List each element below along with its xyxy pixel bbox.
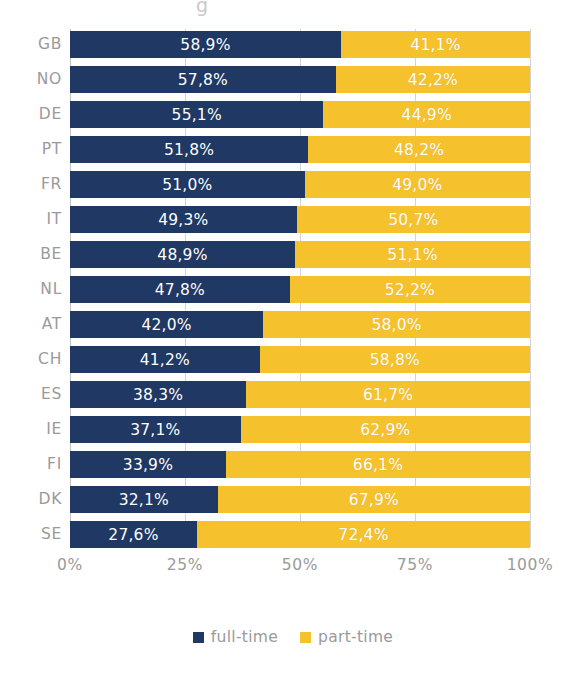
bar-row[interactable]: 55,1%44,9% xyxy=(70,101,530,128)
bar-segment-full-time[interactable]: 37,1% xyxy=(70,416,241,443)
legend-swatch-full-time xyxy=(193,632,204,643)
plot-area: 58,9%41,1%57,8%42,2%55,1%44,9%51,8%48,2%… xyxy=(70,29,530,547)
bar-row[interactable]: 58,9%41,1% xyxy=(70,31,530,58)
bar-row[interactable]: 51,0%49,0% xyxy=(70,171,530,198)
bar-row[interactable]: 47,8%52,2% xyxy=(70,276,530,303)
category-label-be: BE xyxy=(10,241,62,268)
bar-value-label-part-time: 66,1% xyxy=(353,456,403,474)
bar-segment-part-time[interactable]: 67,9% xyxy=(218,486,530,513)
category-label-de: DE xyxy=(10,101,62,128)
bar-segment-part-time[interactable]: 48,2% xyxy=(308,136,530,163)
bar-segment-part-time[interactable]: 72,4% xyxy=(197,521,530,548)
category-axis: GBNODEPTFRITBENLATCHESIEFIDKSE xyxy=(0,29,62,547)
bar-segment-part-time[interactable]: 50,7% xyxy=(297,206,530,233)
bar-value-label-part-time: 50,7% xyxy=(388,211,438,229)
bar-value-label-full-time: 33,9% xyxy=(123,456,173,474)
bar-segment-full-time[interactable]: 48,9% xyxy=(70,241,295,268)
bar-segment-part-time[interactable]: 58,0% xyxy=(263,311,530,338)
bar-value-label-full-time: 57,8% xyxy=(178,71,228,89)
category-label-fi: FI xyxy=(10,451,62,478)
bar-value-label-part-time: 49,0% xyxy=(392,176,442,194)
bar-row[interactable]: 49,3%50,7% xyxy=(70,206,530,233)
category-label-se: SE xyxy=(10,521,62,548)
bar-segment-part-time[interactable]: 58,8% xyxy=(260,346,530,373)
bar-segment-full-time[interactable]: 47,8% xyxy=(70,276,290,303)
bar-segment-full-time[interactable]: 32,1% xyxy=(70,486,218,513)
bar-value-label-part-time: 58,0% xyxy=(371,316,421,334)
category-label-at: AT xyxy=(10,311,62,338)
bar-value-label-full-time: 58,9% xyxy=(180,36,230,54)
bar-row[interactable]: 57,8%42,2% xyxy=(70,66,530,93)
bar-value-label-full-time: 55,1% xyxy=(172,106,222,124)
bar-segment-full-time[interactable]: 58,9% xyxy=(70,31,341,58)
bar-segment-part-time[interactable]: 41,1% xyxy=(341,31,530,58)
category-label-dk: DK xyxy=(10,486,62,513)
bar-segment-part-time[interactable]: 62,9% xyxy=(241,416,530,443)
bar-segment-full-time[interactable]: 42,0% xyxy=(70,311,263,338)
x-axis-tick-labels: 0%25%50%75%100% xyxy=(0,556,586,582)
chart-legend: full-timepart-time xyxy=(0,628,586,646)
bar-segment-full-time[interactable]: 27,6% xyxy=(70,521,197,548)
bar-row[interactable]: 33,9%66,1% xyxy=(70,451,530,478)
bar-value-label-full-time: 38,3% xyxy=(133,386,183,404)
x-tick-label-25pct: 25% xyxy=(167,556,203,574)
bar-row[interactable]: 32,1%67,9% xyxy=(70,486,530,513)
category-label-pt: PT xyxy=(10,136,62,163)
bar-value-label-full-time: 48,9% xyxy=(157,246,207,264)
bar-segment-full-time[interactable]: 55,1% xyxy=(70,101,323,128)
bar-segment-full-time[interactable]: 33,9% xyxy=(70,451,226,478)
bar-segment-part-time[interactable]: 44,9% xyxy=(323,101,530,128)
category-label-ch: CH xyxy=(10,346,62,373)
bar-segment-part-time[interactable]: 61,7% xyxy=(246,381,530,408)
category-label-nl: NL xyxy=(10,276,62,303)
bar-segment-part-time[interactable]: 52,2% xyxy=(290,276,530,303)
bar-segment-part-time[interactable]: 42,2% xyxy=(336,66,530,93)
x-tick-label-75pct: 75% xyxy=(397,556,433,574)
bar-segment-full-time[interactable]: 51,0% xyxy=(70,171,305,198)
legend-item-full-time[interactable]: full-time xyxy=(193,628,278,646)
bar-row[interactable]: 27,6%72,4% xyxy=(70,521,530,548)
bar-value-label-part-time: 41,1% xyxy=(410,36,460,54)
bar-row[interactable]: 48,9%51,1% xyxy=(70,241,530,268)
bar-value-label-full-time: 49,3% xyxy=(158,211,208,229)
bar-segment-part-time[interactable]: 66,1% xyxy=(226,451,530,478)
bar-value-label-part-time: 61,7% xyxy=(363,386,413,404)
bar-value-label-full-time: 42,0% xyxy=(141,316,191,334)
bar-value-label-full-time: 41,2% xyxy=(140,351,190,369)
category-label-no: NO xyxy=(10,66,62,93)
bar-segment-full-time[interactable]: 57,8% xyxy=(70,66,336,93)
bar-row[interactable]: 38,3%61,7% xyxy=(70,381,530,408)
legend-item-part-time[interactable]: part-time xyxy=(300,628,393,646)
bar-value-label-part-time: 44,9% xyxy=(402,106,452,124)
bar-value-label-part-time: 67,9% xyxy=(349,491,399,509)
bar-value-label-part-time: 52,2% xyxy=(385,281,435,299)
bar-value-label-part-time: 51,1% xyxy=(387,246,437,264)
x-tick-label-100pct: 100% xyxy=(507,556,554,574)
bar-row[interactable]: 42,0%58,0% xyxy=(70,311,530,338)
bar-row[interactable]: 37,1%62,9% xyxy=(70,416,530,443)
bar-segment-part-time[interactable]: 49,0% xyxy=(305,171,530,198)
x-tick-label-0pct: 0% xyxy=(57,556,83,574)
bar-value-label-part-time: 48,2% xyxy=(394,141,444,159)
bar-value-label-full-time: 51,8% xyxy=(164,141,214,159)
legend-swatch-part-time xyxy=(300,632,311,643)
x-tick-label-50pct: 50% xyxy=(282,556,318,574)
bar-value-label-full-time: 32,1% xyxy=(119,491,169,509)
category-label-gb: GB xyxy=(10,31,62,58)
stacked-bar-chart: GBNODEPTFRITBENLATCHESIEFIDKSE 58,9%41,1… xyxy=(0,0,586,674)
bar-value-label-part-time: 58,8% xyxy=(370,351,420,369)
bar-segment-full-time[interactable]: 41,2% xyxy=(70,346,260,373)
bar-segment-part-time[interactable]: 51,1% xyxy=(295,241,530,268)
bar-value-label-full-time: 27,6% xyxy=(108,526,158,544)
bar-segment-full-time[interactable]: 49,3% xyxy=(70,206,297,233)
bar-value-label-part-time: 42,2% xyxy=(408,71,458,89)
category-label-ie: IE xyxy=(10,416,62,443)
bar-value-label-full-time: 37,1% xyxy=(130,421,180,439)
legend-label-full-time: full-time xyxy=(211,628,278,646)
bar-row[interactable]: 51,8%48,2% xyxy=(70,136,530,163)
bar-value-label-full-time: 51,0% xyxy=(162,176,212,194)
bar-segment-full-time[interactable]: 51,8% xyxy=(70,136,308,163)
bar-segment-full-time[interactable]: 38,3% xyxy=(70,381,246,408)
bar-value-label-full-time: 47,8% xyxy=(155,281,205,299)
bar-row[interactable]: 41,2%58,8% xyxy=(70,346,530,373)
